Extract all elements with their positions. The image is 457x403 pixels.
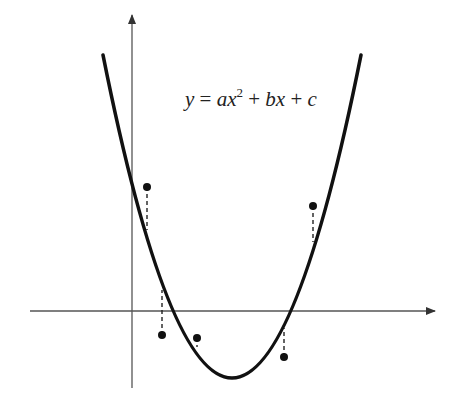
eq-plus: + [243, 87, 265, 111]
data-point [193, 334, 201, 342]
eq-equals: = [194, 87, 216, 111]
parabola-diagram [0, 0, 457, 403]
residual-lines [147, 187, 313, 357]
data-point [280, 353, 288, 361]
data-point [309, 202, 317, 210]
eq-x: x [227, 87, 236, 111]
eq-a: a [217, 87, 228, 111]
eq-plus: + [285, 87, 307, 111]
data-point [158, 331, 166, 339]
data-points [143, 183, 317, 361]
eq-c: c [308, 87, 317, 111]
eq-y: y [185, 87, 194, 111]
equation-label: y = ax2 + bx + c [185, 85, 317, 112]
eq-b: b [265, 87, 276, 111]
data-point [143, 183, 151, 191]
eq-x: x [276, 87, 285, 111]
